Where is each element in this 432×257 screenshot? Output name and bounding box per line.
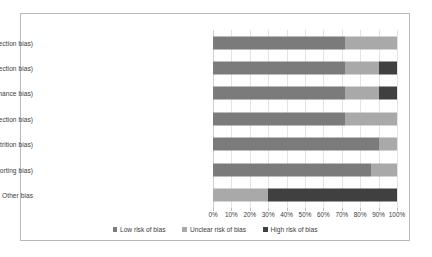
stacked-bar: [213, 87, 397, 100]
legend-label: Unclear risk of bias: [190, 226, 246, 233]
x-tick-label: 20%: [243, 211, 256, 218]
chart-legend: Low risk of biasUnclear risk of biasHigh…: [21, 226, 409, 233]
x-tick-label: 40%: [280, 211, 293, 218]
x-tick-label: 100%: [389, 211, 405, 218]
bar-row: Incomplete outcome data (attrition bias): [21, 132, 409, 157]
category-label: Selective reporting (reporting bias): [0, 166, 33, 173]
stacked-bar: [213, 138, 397, 151]
bar-segment: [268, 189, 397, 202]
legend-item[interactable]: Unclear risk of bias: [182, 226, 246, 233]
stacked-bar: [213, 163, 397, 176]
legend-swatch-icon: [263, 227, 268, 232]
x-tick-label: 50%: [299, 211, 312, 218]
stacked-bar: [213, 62, 397, 75]
legend-item[interactable]: High risk of bias: [263, 226, 317, 233]
bar-segment: [379, 62, 397, 75]
bar-segment: [371, 163, 397, 176]
bar-segment: [213, 163, 371, 176]
bar-row: Allocation concealment (selection bias): [21, 55, 409, 80]
bar-row: Selective reporting (reporting bias): [21, 157, 409, 182]
bar-row: Blinding of participants and personnel (…: [21, 81, 409, 106]
x-axis: 0%10%20%30%40%50%60%70%80%90%100%: [213, 208, 397, 222]
chart-frame: Random sequence generation (selection bi…: [20, 13, 410, 241]
bar-row: Other bias: [21, 182, 409, 207]
legend-item[interactable]: Low risk of bias: [113, 226, 166, 233]
plot-area: Random sequence generation (selection bi…: [21, 14, 409, 240]
category-label: Random sequence generation (selection bi…: [0, 39, 33, 46]
x-tick-label: 0%: [208, 211, 217, 218]
bar-segment: [213, 189, 268, 202]
bar-segment: [345, 36, 397, 49]
bar-row: Random sequence generation (selection bi…: [21, 30, 409, 55]
bar-segment: [213, 36, 345, 49]
legend-label: Low risk of bias: [120, 226, 165, 233]
category-label: Blinding of outcome assessment (detectio…: [0, 115, 33, 122]
x-tick-label: 80%: [354, 211, 367, 218]
legend-label: High risk of bias: [271, 226, 318, 233]
bar-segment: [379, 138, 397, 151]
legend-swatch-icon: [182, 227, 187, 232]
category-label: Blinding of participants and personnel (…: [0, 90, 33, 97]
stacked-bar: [213, 189, 397, 202]
x-tick-label: 90%: [372, 211, 385, 218]
stacked-bar: [213, 36, 397, 49]
bar-segment: [213, 112, 345, 125]
x-tick-label: 70%: [335, 211, 348, 218]
stacked-bar: [213, 112, 397, 125]
x-tick-label: 60%: [317, 211, 330, 218]
bar-segment: [345, 87, 378, 100]
bar-segment: [213, 87, 345, 100]
bar-segment: [213, 62, 345, 75]
bar-row: Blinding of outcome assessment (detectio…: [21, 106, 409, 131]
bar-segment: [379, 87, 397, 100]
legend-swatch-icon: [113, 227, 118, 232]
bar-segment: [345, 112, 397, 125]
x-tick-label: 10%: [225, 211, 238, 218]
category-label: Allocation concealment (selection bias): [0, 65, 33, 72]
category-label: Other bias: [2, 192, 33, 199]
bar-segment: [345, 62, 378, 75]
bar-segment: [213, 138, 379, 151]
category-label: Incomplete outcome data (attrition bias): [0, 141, 33, 148]
x-tick-label: 30%: [262, 211, 275, 218]
